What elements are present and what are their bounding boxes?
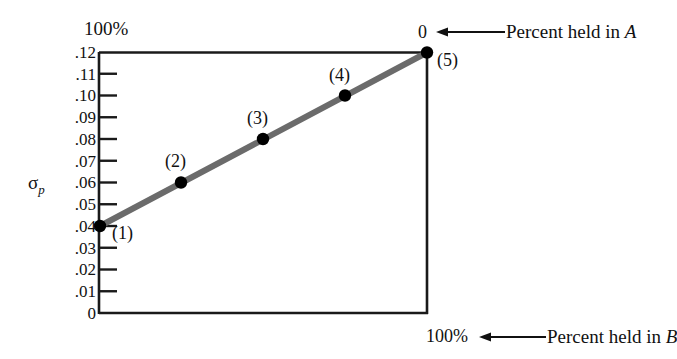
y-tick-label-03: .03 xyxy=(52,240,96,257)
data-point-label-5: (5) xyxy=(437,51,458,69)
percent-held-in-b-text: Percent held in xyxy=(547,326,666,347)
data-point-2 xyxy=(175,176,187,188)
percent-held-in-a-text: Percent held in xyxy=(506,21,625,42)
y-tick-label-07: .07 xyxy=(52,153,96,170)
top-right-value-label: 0 xyxy=(418,23,427,41)
percent-held-in-a-note: Percent held in A xyxy=(506,22,636,41)
data-point-5 xyxy=(421,46,433,58)
y-tick-label-10: .10 xyxy=(52,87,96,104)
y-axis-label: σp xyxy=(28,173,45,196)
y-tick-label-01: .01 xyxy=(52,283,96,300)
percent-held-in-a-symbol: A xyxy=(625,21,637,42)
y-tick-label-06: .06 xyxy=(52,174,96,191)
top-right-leader-arrow xyxy=(436,28,505,37)
y-tick-label-05: .05 xyxy=(52,196,96,213)
data-point-label-4: (4) xyxy=(329,66,350,84)
data-point-label-3: (3) xyxy=(247,109,268,127)
top-left-percent-label: 100% xyxy=(84,19,128,38)
data-point-4 xyxy=(339,89,351,101)
bottom-right-leader-arrow xyxy=(479,333,546,342)
y-tick-label-09: .09 xyxy=(52,109,96,126)
y-tick-label-11: .11 xyxy=(52,66,96,83)
y-tick-label-08: .08 xyxy=(52,131,96,148)
y-tick-label-0: 0 xyxy=(52,305,96,322)
percent-held-in-b-note: Percent held in B xyxy=(547,327,677,346)
sigma-subscript: p xyxy=(38,182,45,197)
y-tick-label-04: .04 xyxy=(52,218,96,235)
y-axis-ticks xyxy=(99,74,117,292)
plot-frame xyxy=(99,52,428,314)
y-tick-label-02: .02 xyxy=(52,261,96,278)
sigma-symbol: σ xyxy=(28,172,38,193)
data-point-label-1: (1) xyxy=(112,224,133,242)
y-tick-label-12: .12 xyxy=(52,44,96,61)
data-point-label-2: (2) xyxy=(165,152,186,170)
bottom-right-value-label: 100% xyxy=(426,327,468,345)
data-point-3 xyxy=(257,133,269,145)
percent-held-in-b-symbol: B xyxy=(666,326,677,347)
